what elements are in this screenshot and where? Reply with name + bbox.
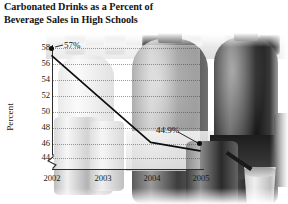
data-series-line — [0, 0, 288, 204]
data-label-last: 44.9% — [156, 125, 179, 135]
data-point-2005 — [197, 141, 202, 146]
chart-figure: Carbonated Drinks as a Percent of Bevera… — [0, 0, 288, 204]
data-point-2002 — [49, 46, 54, 51]
data-label-first: 57% — [64, 40, 81, 50]
